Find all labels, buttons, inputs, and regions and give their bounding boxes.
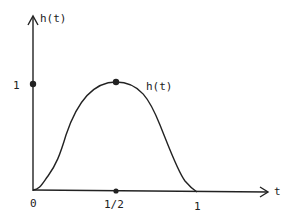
x-tick-label-half: 1/2 (104, 199, 124, 210)
curve-h-t (33, 82, 197, 192)
y-tick-label: 1 (13, 80, 20, 91)
x-axis (33, 190, 268, 192)
x-tick-label-0: 0 (30, 198, 37, 209)
x-axis-label: t (274, 186, 281, 197)
y-unit-point (30, 81, 36, 87)
peak-point (113, 79, 119, 85)
y-axis-label: h(t) (40, 13, 67, 24)
curve-label: h(t) (146, 81, 173, 92)
plot-canvas (0, 0, 294, 223)
x-tick-label-1: 1 (194, 201, 201, 212)
diagram: h(t) 1 h(t) 0 1/2 1 t (0, 0, 294, 223)
x-half-point (113, 188, 118, 193)
